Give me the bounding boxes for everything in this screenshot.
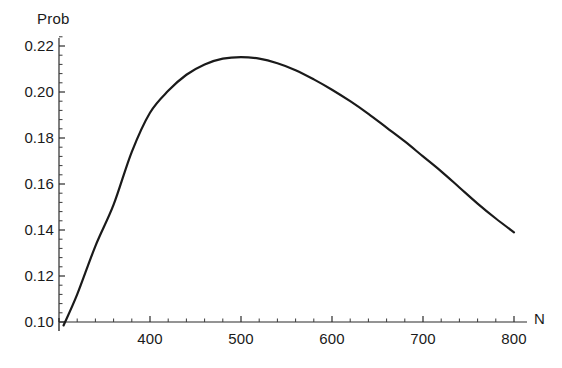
chart-plot-area: Prob N 0.100.120.140.160.180.200.22 4005… [0,0,562,368]
chart-canvas [0,0,562,368]
axis-tick-marks [59,37,514,331]
series-line-prob [64,57,514,325]
axis-lines [59,38,527,322]
data-series-group [64,57,514,325]
